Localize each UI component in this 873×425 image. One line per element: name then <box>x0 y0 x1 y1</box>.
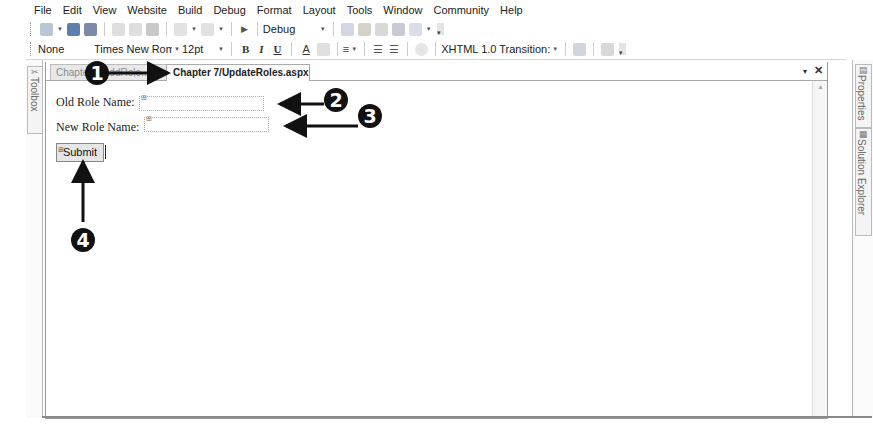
callout-4: 4 <box>71 228 95 252</box>
callout-2: 2 <box>324 88 348 112</box>
callout-3: 3 <box>358 104 382 128</box>
callout-1: 1 <box>85 61 109 85</box>
